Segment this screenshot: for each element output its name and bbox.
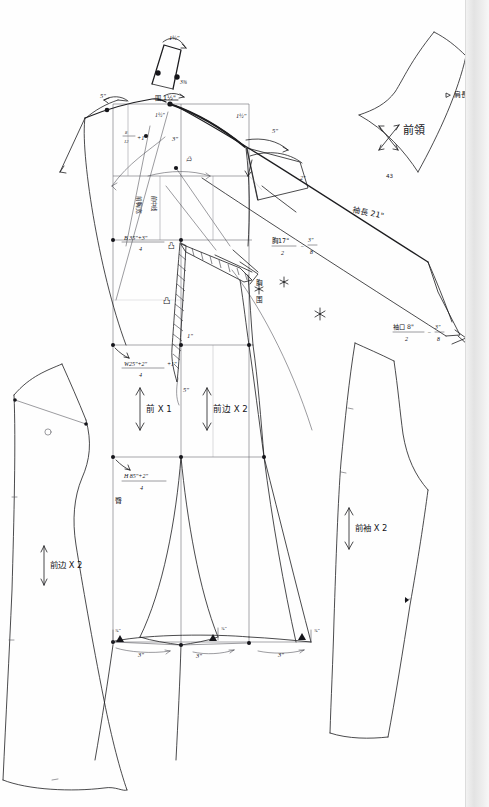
chest-formula-numerator: 胸17": [272, 236, 289, 245]
hem-mark-c: ⅜": [314, 628, 321, 633]
label-collar-width: 3⅜: [179, 79, 188, 85]
grain-arrow-front-bodice: [136, 388, 144, 430]
chest-formula-minus: −: [300, 243, 304, 249]
chest-formula-tail-den: 8: [310, 249, 313, 255]
left-edge-extension: [95, 645, 113, 760]
waist-formula-tail: +1": [167, 361, 177, 367]
piece-collar-stand: 1½" 3⅜: [152, 34, 188, 89]
label-collar-top: 1½": [169, 34, 180, 41]
label-front-collar: 前領: [403, 123, 425, 137]
grain-arrow-front-sleeve: [345, 508, 353, 549]
piece-front-side-left: 前边 X 2: [3, 364, 127, 790]
grain-arrow-front-side-right: [203, 388, 211, 430]
bust-formula-denominator: 4: [139, 246, 142, 252]
label-sleeve-length: 袖長 21": [352, 204, 385, 220]
construction-grid: [113, 104, 311, 645]
hem-mark-a: ⅜": [115, 628, 122, 633]
label-neck-circumference: 围 1½": [155, 94, 176, 102]
cuff-formula-tail-den: 8: [437, 336, 440, 342]
label-two-inch-cap: 2": [300, 175, 306, 181]
label-chest-vertical-a: 胸: [256, 278, 263, 287]
label-collar-grain: 43: [386, 173, 394, 179]
dart-symbol: 凸: [163, 296, 170, 305]
label-front-sleeve: 前袖 X 2: [355, 523, 387, 533]
label-neck-drop: 1½": [155, 112, 165, 118]
hem-mark-b: ⅜": [221, 626, 228, 631]
hip-formula-denominator: 4: [140, 485, 143, 491]
shoulder-slope-numerator: 8: [125, 130, 128, 135]
waist-formula-denominator: 4: [139, 372, 142, 378]
chest-formula-tail-num: 3": [307, 237, 314, 243]
dart-diagonal-hatch: [192, 248, 247, 280]
cuff-formula-denominator: 2: [405, 336, 408, 342]
hem-dim-a: 3": [137, 651, 144, 658]
label-chest-vertical-b: 围: [256, 296, 263, 304]
bust-formula-numerator: B 35"+3": [124, 235, 148, 241]
bust-formula-block: B 35"+3" 4 凸: [111, 235, 183, 252]
notch-marks-sleeve: [280, 277, 325, 320]
pattern-drawing: 前边 X 2 1½" 3⅜: [0, 0, 489, 807]
cuff-formula-numerator: 袖口 8": [393, 323, 414, 331]
center-front-extension: [176, 645, 181, 760]
piece-front-sleeve: 前袖 X 2: [330, 343, 428, 738]
label-armhole-measure: 1½": [236, 112, 247, 119]
scanned-page-edge: [466, 0, 489, 807]
hip-formula-numerator: H 85"+2": [123, 473, 148, 479]
front-side-right-seam: [232, 148, 312, 642]
label-shoulder-five-left: 5": [100, 92, 106, 99]
note-chest-width: 前胸宽: [135, 196, 143, 214]
pattern-sheet: 前边 X 2 1½" 3⅜: [0, 0, 489, 807]
hem-dim-c: 3": [277, 651, 284, 658]
piece-front-collar: 前領 43 肩長: [359, 32, 468, 179]
chest-formula-block: 胸17" 2 − 3" 8 胸 围: [255, 236, 317, 304]
hem-dimensions: 3" 3" 3": [116, 648, 304, 659]
label-three-inch-chest: 3": [171, 135, 178, 142]
dart-hatched-diagonal: [181, 244, 258, 284]
label-one-inch-dart: 1": [187, 332, 193, 339]
dart-hatched-vertical: 凸 1" 5": [163, 243, 193, 405]
label-hip-vertical: 臀: [115, 497, 122, 505]
chest-formula-denominator: 2: [281, 250, 284, 256]
label-front-side-left: 前边 X 2: [50, 560, 82, 570]
shoulder-neck-construction: 5" 围 1½" 1½" 1½": [60, 92, 288, 345]
collar-grain-cross: [379, 125, 399, 150]
grain-arrow-front-side-left: [41, 546, 47, 585]
hip-formula-block: H 85"+2" 4 臀: [111, 455, 183, 505]
sleeve-cuff-formula: 袖口 8" 2 − 3" 8: [393, 323, 444, 342]
label-front-bodice: 前 X 1: [146, 403, 172, 414]
label-front-side-right: 前边 X 2: [213, 403, 248, 414]
label-bust-point: 凸: [168, 242, 175, 250]
hem-dim-b: 3": [195, 652, 202, 659]
shoulder-slope-denominator: 12: [124, 139, 129, 144]
sleeve-long-diagonal: 袖長 21" 袖口 8" 2 − 3" 8: [176, 106, 468, 345]
waist-formula-numerator: W25"+2": [124, 361, 148, 367]
cuff-formula-minus: −: [427, 329, 431, 335]
cuff-formula-tail-num: 3": [434, 324, 441, 330]
label-dart-five: 5": [183, 386, 189, 393]
label-center-guide: 凸: [186, 156, 192, 162]
note-center-front: 前中线: [150, 196, 158, 211]
shoulder-slope-formula: 8 12 +1" 3" 前胸宽 前中线 凸: [112, 112, 230, 300]
label-five-inch-right: 5": [272, 127, 278, 134]
sleeve-cap-wedge: 5" 2": [245, 127, 308, 212]
